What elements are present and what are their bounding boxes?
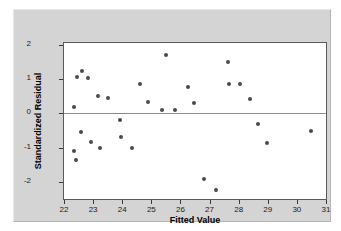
data-point <box>72 105 76 109</box>
data-point <box>192 101 196 105</box>
x-axis-tick <box>64 200 65 204</box>
x-axis-tick-label: 30 <box>285 205 309 214</box>
y-axis-tick <box>59 79 63 80</box>
data-point <box>79 130 83 134</box>
data-point <box>160 108 164 112</box>
chart-panel: 22232425262728293031210-1-2 Fitted Value… <box>13 9 331 222</box>
x-axis-tick <box>180 200 181 204</box>
data-point <box>118 118 122 122</box>
data-point <box>130 146 134 150</box>
y-axis-title-text: Standardized Residual <box>33 73 43 170</box>
zero-line <box>64 113 326 114</box>
data-point <box>173 108 177 112</box>
plot-frame <box>63 42 327 200</box>
data-point <box>309 129 313 133</box>
data-point <box>256 122 260 126</box>
y-axis-tick-label: 2 <box>9 39 31 48</box>
data-point <box>106 96 110 100</box>
data-point <box>72 149 76 153</box>
y-axis-tick-label: 0 <box>9 107 31 116</box>
data-point <box>80 69 84 73</box>
y-axis-tick-label: -1 <box>9 142 31 151</box>
data-point <box>214 188 218 192</box>
x-axis-tick-label: 26 <box>168 205 192 214</box>
data-point <box>96 94 100 98</box>
residual-plot-figure: 22232425262728293031210-1-2 Fitted Value… <box>0 0 341 231</box>
x-axis-tick-label: 23 <box>81 205 105 214</box>
data-point <box>89 140 93 144</box>
x-axis-tick <box>93 200 94 204</box>
x-axis-tick <box>239 200 240 204</box>
data-point <box>227 82 231 86</box>
y-axis-tick-label: -2 <box>9 176 31 185</box>
x-axis-tick <box>297 200 298 204</box>
data-point <box>75 75 79 79</box>
data-point <box>119 135 123 139</box>
data-point <box>98 146 102 150</box>
x-axis-tick <box>326 200 327 204</box>
y-axis-tick <box>59 113 63 114</box>
x-axis-tick-label: 25 <box>139 205 163 214</box>
x-axis-tick-label: 31 <box>314 205 338 214</box>
data-point <box>238 82 242 86</box>
data-point <box>86 76 90 80</box>
x-axis-tick <box>122 200 123 204</box>
x-axis-tick <box>268 200 269 204</box>
y-axis-tick <box>59 182 63 183</box>
data-point <box>74 158 78 162</box>
x-axis-tick-label: 29 <box>256 205 280 214</box>
data-point <box>265 141 269 145</box>
y-axis-tick <box>59 148 63 149</box>
x-axis-title: Fitted Value <box>63 215 327 225</box>
y-axis-tick-label: 1 <box>9 73 31 82</box>
plot-area <box>64 43 326 199</box>
x-axis-tick <box>210 200 211 204</box>
x-axis-tick-label: 22 <box>52 205 76 214</box>
x-axis-tick <box>151 200 152 204</box>
data-point <box>248 97 252 101</box>
data-point <box>164 53 168 57</box>
data-point <box>202 177 206 181</box>
data-point <box>226 60 230 64</box>
data-point <box>186 85 190 89</box>
x-axis-tick-label: 24 <box>110 205 134 214</box>
y-axis-title: Standardized Residual <box>32 42 44 200</box>
x-axis-tick-label: 27 <box>198 205 222 214</box>
y-axis-tick <box>59 45 63 46</box>
data-point <box>146 100 150 104</box>
data-point <box>138 82 142 86</box>
x-axis-tick-label: 28 <box>227 205 251 214</box>
